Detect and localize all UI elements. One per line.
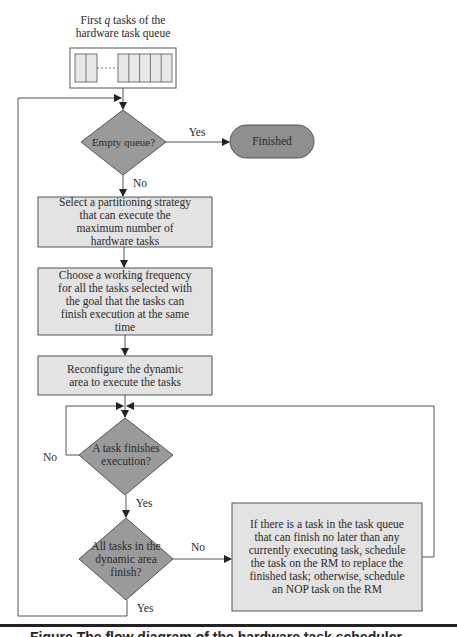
queue-title-line2: hardware task queue bbox=[63, 27, 183, 40]
figure-rule bbox=[0, 624, 457, 627]
task-no-label: No bbox=[38, 451, 62, 464]
empty-no-label: No bbox=[128, 177, 152, 190]
schedule-replace-text: If there is a task in the task queue tha… bbox=[240, 503, 414, 611]
finished-label: Finished bbox=[230, 125, 314, 158]
select-strategy-text: Select a partitioning strategy that can … bbox=[52, 197, 198, 247]
all-no-label: No bbox=[186, 541, 210, 554]
edge-all-yes bbox=[18, 600, 127, 616]
reconfigure-text: Reconfigure the dynamic area to execute … bbox=[52, 356, 198, 395]
queue-title-line1: First q tasks of the bbox=[63, 14, 183, 27]
empty-queue-label: Empty queue? bbox=[81, 110, 166, 175]
choose-frequency-text: Choose a working frequency for all the t… bbox=[50, 268, 200, 335]
all-finish-text: All tasks in the dynamic area finish? bbox=[86, 536, 166, 582]
task-yes-label: Yes bbox=[130, 497, 158, 510]
task-queue-graphic bbox=[70, 48, 176, 88]
all-yes-label: Yes bbox=[131, 602, 159, 615]
task-finishes-text: A task finishes execution? bbox=[92, 432, 160, 478]
figure-caption: Figure The flow diagram of the hardware … bbox=[30, 629, 402, 637]
empty-yes-label: Yes bbox=[182, 126, 212, 139]
